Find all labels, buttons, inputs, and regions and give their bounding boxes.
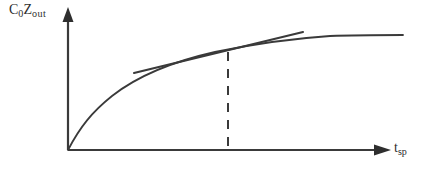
axes-group [63,7,392,156]
tangent-line [134,32,303,73]
y-axis-arrow-icon [63,7,74,22]
plot-svg [0,0,431,170]
saturation-curve [68,35,403,150]
y-axis-label: C0Zout [9,3,46,19]
x-axis-label: tsp [394,141,407,157]
x-axis-arrow-icon [374,145,391,156]
diagram-canvas: C0Zout tsp [0,0,431,170]
y-axis-label-main: Z [23,2,32,17]
y-axis-label-main-sub: out [32,8,46,19]
x-axis-label-sub: sp [398,146,407,157]
y-axis-label-prefix: C [9,2,18,17]
